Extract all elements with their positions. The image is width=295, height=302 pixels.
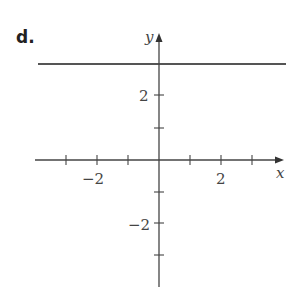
x-tick-label-2: 2	[216, 170, 226, 188]
x-axis-arrow-icon	[275, 157, 284, 164]
x-tick-label-neg2: −2	[82, 170, 104, 188]
x-axis-label: x	[276, 164, 285, 182]
y-axis-label: y	[144, 28, 154, 46]
coordinate-plane: −2 2 2 −2 x y	[0, 0, 295, 302]
y-tick-label-neg2: −2	[128, 216, 150, 234]
y-axis-arrow-icon	[156, 33, 163, 42]
y-tick-label-2: 2	[139, 87, 149, 105]
